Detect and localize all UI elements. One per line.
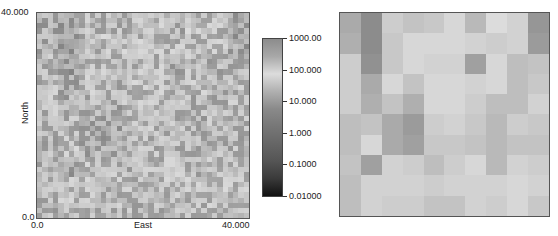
heatmap-cell (444, 114, 465, 134)
heatmap-cell (361, 74, 382, 94)
heatmap-cell (382, 175, 403, 195)
heatmap-cell (424, 94, 445, 114)
heatmap-cell (528, 74, 549, 94)
colorbar-tick-label: 0.1000 (289, 159, 317, 169)
heatmap-cell (507, 135, 528, 155)
colorbar-tick-mark (283, 101, 287, 102)
heatmap-cell (403, 33, 424, 53)
heatmap-cell (465, 155, 486, 175)
heatmap-cell (382, 114, 403, 134)
heatmap-cell (465, 74, 486, 94)
heatmap-cell (361, 94, 382, 114)
y-axis-max-label: 40.000 (1, 7, 29, 17)
colorbar-tick-label: 0.01000 (289, 191, 322, 201)
heatmap-cell (382, 94, 403, 114)
heatmap-cell (424, 33, 445, 53)
heatmap-cell (444, 175, 465, 195)
colorbar-tick-label: 1000.00 (289, 33, 322, 43)
heatmap-cell (465, 33, 486, 53)
heatmap-cell (382, 196, 403, 216)
heatmap-cell (465, 54, 486, 74)
heatmap-cell (528, 155, 549, 175)
heatmap-cell (528, 196, 549, 216)
colorbar-tick-mark (283, 196, 287, 197)
heatmap-cell (340, 54, 361, 74)
heatmap-cell (507, 74, 528, 94)
heatmap-cell (444, 33, 465, 53)
heatmap-cell (528, 175, 549, 195)
heatmap-cell (340, 175, 361, 195)
heatmap-cell (382, 13, 403, 33)
heatmap-cell (424, 54, 445, 74)
heatmap-cell (486, 13, 507, 33)
heatmap-cell (444, 13, 465, 33)
heatmap-cell (340, 155, 361, 175)
heatmap-cell (444, 155, 465, 175)
heatmap-cell (403, 54, 424, 74)
heatmap-cell (340, 33, 361, 53)
heatmap-cell (403, 155, 424, 175)
colorbar-gradient (262, 38, 283, 197)
heatmap-cell (486, 155, 507, 175)
heatmap-cell (340, 114, 361, 134)
heatmap-cell (528, 33, 549, 53)
heatmap-cell (424, 114, 445, 134)
heatmap-cell (340, 196, 361, 216)
heatmap-cell (403, 114, 424, 134)
heatmap-cell (403, 94, 424, 114)
heatmap-cell (507, 13, 528, 33)
heatmap-cell (486, 33, 507, 53)
heatmap-cell (361, 33, 382, 53)
heatmap-cell (528, 13, 549, 33)
heatmap-cell (403, 13, 424, 33)
heatmap-cell (528, 114, 549, 134)
colorbar-tick-label: 100.000 (289, 65, 322, 75)
heatmap-cell (465, 94, 486, 114)
heatmap-cell (424, 74, 445, 94)
heatmap-cell (403, 175, 424, 195)
heatmap-cell (465, 114, 486, 134)
heatmap-cell (340, 13, 361, 33)
heatmap-cell (361, 175, 382, 195)
heatmap-cell (465, 196, 486, 216)
heatmap-cell (444, 74, 465, 94)
colorbar-tick-mark (283, 70, 287, 71)
heatmap-cell (507, 196, 528, 216)
x-axis-min-label: 0.0 (31, 220, 44, 230)
colorbar-tick-label: 10.000 (289, 96, 317, 106)
heatmap-cell (403, 196, 424, 216)
heatmap-cell (528, 54, 549, 74)
heatmap-cell (486, 175, 507, 195)
heatmap-cell (361, 114, 382, 134)
heatmap-cell (465, 13, 486, 33)
heatmap-cell (382, 54, 403, 74)
heatmap-cell (486, 54, 507, 74)
heatmap-cell (486, 114, 507, 134)
colorbar-tick-mark (283, 164, 287, 165)
heatmap-cell (507, 175, 528, 195)
right-heatmap-grid (339, 12, 550, 217)
heatmap-cell (361, 54, 382, 74)
colorbar-tick-mark (283, 38, 287, 39)
heatmap-cell (486, 135, 507, 155)
heatmap-cell (444, 54, 465, 74)
heatmap-cell (507, 94, 528, 114)
heatmap-cell (361, 196, 382, 216)
x-axis-title: East (134, 220, 152, 230)
heatmap-cell (444, 94, 465, 114)
heatmap-cell (528, 135, 549, 155)
heatmap-cell (340, 74, 361, 94)
heatmap-cell (424, 135, 445, 155)
heatmap-cell (361, 135, 382, 155)
heatmap-cell (486, 74, 507, 94)
heatmap-cell (340, 94, 361, 114)
heatmap-cell (507, 114, 528, 134)
heatmap-cell (444, 135, 465, 155)
heatmap-cell (528, 94, 549, 114)
heatmap-cell (486, 196, 507, 216)
heatmap-cell (465, 175, 486, 195)
heatmap-cell (382, 74, 403, 94)
heatmap-cell (403, 135, 424, 155)
y-axis-title: North (20, 102, 30, 124)
heatmap-cell (444, 196, 465, 216)
